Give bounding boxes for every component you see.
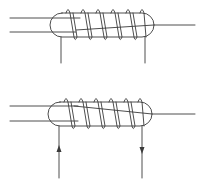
top-coil — [10, 10, 195, 64]
coil-windings — [66, 10, 146, 40]
coil-windings — [64, 99, 144, 129]
solenoid-diagram — [0, 0, 205, 181]
bottom-coil — [10, 99, 195, 179]
inner-wire — [74, 106, 152, 114]
arrow-up-icon — [57, 145, 62, 152]
arrow-down-icon — [140, 147, 145, 154]
